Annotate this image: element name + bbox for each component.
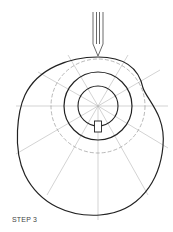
keyway (95, 121, 102, 132)
step-caption: STEP 3 (12, 216, 37, 223)
radial-construction-lines (16, 55, 168, 220)
follower (93, 12, 103, 56)
cam-profile (17, 57, 163, 215)
cam-diagram (0, 0, 173, 232)
